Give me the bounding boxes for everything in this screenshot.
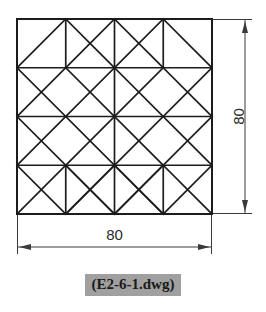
- drawing-file-label-text: (E2-6-1.dwg): [85, 274, 182, 296]
- drawing-file-label: (E2-6-1.dwg): [70, 272, 196, 298]
- arrowhead-down: [242, 200, 248, 212]
- bottom-width-dimension: 80: [18, 215, 212, 254]
- technical-drawing-svg: 80 80: [0, 0, 266, 312]
- arrowhead-left: [19, 244, 31, 250]
- arrowhead-up: [242, 21, 248, 33]
- width-dimension-text: 80: [106, 226, 123, 243]
- height-dimension-text: 80: [230, 108, 247, 125]
- arrowhead-right: [198, 244, 210, 250]
- drawing-canvas: 80 80 (E2-6-1.dwg): [0, 0, 266, 312]
- pattern-figure: [17, 19, 212, 214]
- right-height-dimension: 80: [213, 20, 252, 214]
